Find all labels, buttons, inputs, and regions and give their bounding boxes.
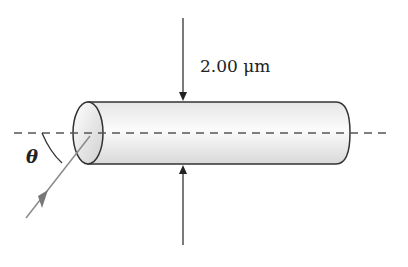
angle-arc	[42, 133, 62, 163]
arrow-down-icon	[179, 92, 187, 101]
fiber-diagram: 2.00 μm θ	[0, 0, 408, 267]
arrow-up-icon	[179, 165, 187, 174]
angle-theta-label: θ	[26, 146, 38, 167]
diameter-label: 2.00 μm	[200, 56, 270, 76]
ray-arrowhead-icon	[38, 190, 48, 208]
diagram-graphics	[0, 0, 408, 267]
top-dimension-arrow	[179, 18, 187, 101]
bottom-dimension-arrow	[179, 165, 187, 245]
